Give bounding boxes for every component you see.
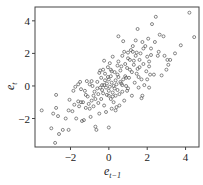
data-point [151,23,154,26]
data-point [72,89,75,92]
y-tick-label: 0 [25,80,31,92]
data-point [136,67,139,70]
x-tick-label: −2 [65,151,77,163]
data-point [137,76,140,79]
data-point [110,81,113,84]
data-point [74,85,77,88]
data-point [80,101,83,104]
data-point [108,62,111,65]
data-point [127,51,130,54]
data-point [52,112,55,115]
data-point [148,65,151,68]
data-point [163,54,166,57]
data-point [142,47,145,50]
data-point [75,117,78,120]
data-point [124,63,127,66]
data-point [122,78,125,81]
data-point [88,107,91,110]
data-point [113,71,116,74]
data-point [147,37,150,40]
data-point [115,106,118,109]
data-point [78,105,81,108]
data-point [67,109,70,112]
data-point [118,93,121,96]
data-point [88,83,91,86]
data-point [96,80,99,83]
data-point [83,89,86,92]
data-point [98,112,101,115]
data-point [158,33,161,36]
data-point [107,89,110,92]
data-point [111,55,114,58]
data-point [148,60,151,63]
data-point [106,66,109,69]
data-point [148,86,151,89]
data-point [71,110,74,113]
data-point [94,98,97,101]
data-point [154,15,157,18]
data-point [112,101,115,104]
data-point [157,50,160,53]
y-tick-label: 4 [25,15,31,27]
data-point [167,63,170,66]
data-point [160,74,163,77]
data-point [111,91,114,94]
data-point [188,11,191,14]
data-point [107,126,110,129]
data-point [101,89,104,92]
data-point [103,104,106,107]
data-point [132,63,135,66]
data-point [150,54,153,57]
data-point [109,75,112,78]
data-point [145,70,148,73]
data-point [77,83,80,86]
data-point [55,106,58,109]
data-point [92,94,95,97]
data-point [97,102,100,105]
data-point [152,73,155,76]
data-point [135,72,138,75]
data-point [143,84,146,87]
data-point [131,50,134,53]
data-point [103,84,106,87]
data-point [139,52,142,55]
x-tick-label: 2 [144,151,150,163]
data-point [138,66,141,69]
data-point [68,98,71,101]
data-point [146,78,149,81]
data-point [131,45,134,48]
data-point [142,63,145,66]
data-point [129,49,132,52]
data-point [67,128,70,131]
data-point [149,73,152,76]
data-point [174,52,177,55]
data-point [126,67,129,70]
data-point [117,60,120,63]
data-points [40,11,196,144]
data-point [55,93,58,96]
data-point [150,47,153,50]
data-point [102,92,105,95]
y-axis-label-subscript: t [10,82,19,85]
x-axis-ticks: −2024 [65,147,189,163]
data-point [117,35,120,38]
data-point [133,81,136,84]
data-point [123,50,126,53]
data-point [40,109,43,112]
data-point [146,55,149,58]
data-point [57,115,60,118]
data-point [89,115,92,118]
data-point [64,117,67,120]
x-tick-label: 4 [183,151,189,163]
y-tick-label: 2 [25,47,31,59]
data-point [118,104,121,107]
data-point [85,80,88,83]
data-point [153,41,156,44]
data-point [140,78,143,81]
data-point [128,68,131,71]
data-point [141,41,144,44]
data-point [121,54,124,57]
data-point [84,106,87,109]
data-point [162,35,165,38]
data-point [93,90,96,93]
